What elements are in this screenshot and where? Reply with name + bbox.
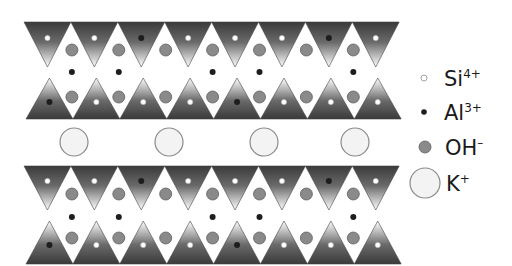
oh-ion: [66, 188, 78, 200]
oh-ion: [207, 91, 219, 103]
interlayer-potassium-row: [60, 128, 369, 156]
al-ion: [46, 242, 52, 248]
legend-label-si: Si4+: [444, 67, 481, 91]
legend-label-oh: OH–: [445, 136, 483, 160]
oh-ion: [347, 232, 359, 244]
al-ion: [234, 242, 240, 248]
al-ion: [116, 69, 122, 75]
tetrahedron-down: [71, 166, 118, 210]
lower-sheet: [24, 166, 401, 264]
legend-label-al: Al3+: [444, 101, 482, 125]
legend-label-k: K+: [446, 172, 470, 196]
legend-marker-k-icon: [410, 168, 440, 198]
legend-charge: 4+: [463, 67, 481, 81]
oh-ion: [254, 44, 266, 56]
al-ion: [116, 214, 122, 220]
tetrahedron-down: [165, 22, 212, 67]
tetrahedron-down: [259, 22, 306, 67]
al-ion: [350, 69, 356, 75]
oh-ion: [254, 188, 266, 200]
al-ion: [138, 35, 144, 41]
si-ion: [45, 35, 50, 40]
tetrahedron-down: [305, 22, 352, 67]
oh-ion: [300, 44, 312, 56]
al-ion: [257, 214, 263, 220]
oh-ion: [207, 44, 219, 56]
legend-charge: +: [460, 172, 470, 186]
oh-ion: [66, 44, 78, 56]
oh-ion: [160, 232, 172, 244]
tetrahedron-down: [352, 166, 399, 210]
si-ion: [373, 35, 378, 40]
oh-ion: [347, 188, 359, 200]
al-ion: [210, 69, 216, 75]
si-ion: [328, 99, 333, 104]
si-ion: [281, 99, 286, 104]
al-ion: [46, 99, 52, 105]
al-ion: [69, 214, 75, 220]
si-ion: [328, 242, 333, 247]
tetrahedron-down: [212, 166, 259, 210]
al-ion: [138, 178, 144, 184]
al-ion: [69, 69, 75, 75]
si-ion: [279, 35, 284, 40]
k-ion: [341, 128, 369, 156]
tetrahedron-down: [118, 22, 165, 67]
oh-ion: [347, 44, 359, 56]
si-ion: [281, 242, 286, 247]
tetrahedron-down: [24, 166, 71, 210]
oh-ion: [113, 91, 125, 103]
tetrahedron-down: [352, 22, 399, 67]
oh-ion: [207, 232, 219, 244]
al-ion: [257, 69, 263, 75]
tetrahedron-down: [71, 22, 118, 67]
tetrahedron-up: [354, 78, 401, 119]
legend-symbol: K: [446, 172, 461, 196]
legend-symbol: Al: [444, 101, 464, 125]
legend-item-al: Al3+: [421, 101, 482, 125]
oh-ion: [160, 44, 172, 56]
si-ion: [92, 178, 97, 183]
al-ion: [234, 99, 240, 105]
oh-ion: [113, 232, 125, 244]
oh-ion: [207, 188, 219, 200]
si-ion: [45, 178, 50, 183]
si-ion: [232, 35, 237, 40]
legend-item-si: Si4+: [421, 67, 481, 91]
oh-ion: [300, 91, 312, 103]
si-ion: [186, 35, 191, 40]
oh-ion: [113, 188, 125, 200]
oh-ion: [160, 91, 172, 103]
tetrahedron-down: [212, 22, 259, 67]
k-ion: [250, 128, 278, 156]
oh-ion: [300, 232, 312, 244]
si-ion: [94, 242, 99, 247]
oh-ion: [66, 232, 78, 244]
tetrahedron-down: [259, 166, 306, 210]
al-ion: [350, 214, 356, 220]
oh-ion: [347, 91, 359, 103]
oh-ion: [254, 232, 266, 244]
si-ion: [188, 99, 193, 104]
oh-ion: [160, 188, 172, 200]
legend-charge: 3+: [464, 101, 482, 115]
si-ion: [279, 178, 284, 183]
legend-marker-si-icon: [421, 75, 427, 81]
tetrahedron-down: [24, 22, 71, 67]
si-ion: [375, 242, 380, 247]
si-ion: [94, 99, 99, 104]
si-ion: [188, 242, 193, 247]
k-ion: [155, 128, 183, 156]
oh-ion: [300, 188, 312, 200]
legend-marker-al-icon: [421, 109, 427, 115]
si-ion: [232, 178, 237, 183]
si-ion: [373, 178, 378, 183]
oh-ion: [66, 91, 78, 103]
al-ion: [210, 214, 216, 220]
tetrahedron-down: [165, 166, 212, 210]
si-ion: [141, 99, 146, 104]
upper-sheet: [24, 22, 401, 119]
si-ion: [375, 99, 380, 104]
oh-ion: [113, 44, 125, 56]
legend: Si4+Al3+OH–K+: [410, 67, 483, 198]
